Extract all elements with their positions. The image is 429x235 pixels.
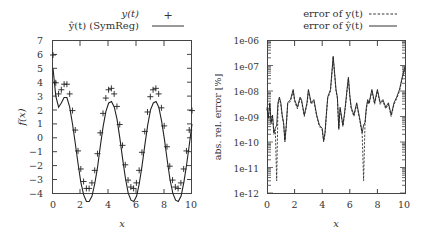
- svg-text:6: 6: [347, 199, 353, 210]
- left-chart: y(t) + ŷ(t) (SymReg) 7 6 5 4 3 2 1 0 −1 …: [0, 0, 215, 235]
- svg-text:0: 0: [264, 199, 270, 210]
- svg-text:10: 10: [185, 199, 197, 210]
- left-x-axis-label: x: [119, 218, 125, 229]
- legend-label-error-y: error of y(t): [303, 8, 363, 19]
- right-y-ticks: [268, 41, 405, 193]
- svg-text:1e-08: 1e-08: [233, 87, 259, 97]
- svg-text:5: 5: [37, 63, 43, 74]
- svg-text:10: 10: [398, 199, 410, 210]
- svg-text:−3: −3: [29, 174, 43, 185]
- svg-text:7: 7: [37, 35, 43, 46]
- svg-text:1e-12: 1e-12: [233, 189, 259, 199]
- right-legend: error of y(t) error of ŷ(t): [303, 8, 397, 31]
- svg-text:1e-10: 1e-10: [233, 138, 259, 148]
- left-y-axis-label: f(x): [16, 108, 27, 126]
- error-yhat-solid-line: [267, 56, 405, 140]
- svg-text:4: 4: [105, 199, 111, 210]
- right-y-ticklabels: 1e-06 1e-07 1e-08 1e-09 1e-10 1e-11 1e-1…: [233, 36, 259, 199]
- legend-label-error-yhat: error of ŷ(t): [303, 20, 363, 31]
- legend-label-yhat: ŷ(t) (SymReg): [68, 20, 139, 31]
- svg-text:0: 0: [37, 132, 43, 143]
- left-x-ticks: [80, 41, 164, 194]
- svg-text:8: 8: [161, 199, 167, 210]
- right-chart: error of y(t) error of ŷ(t) 1e-06 1e-07 …: [215, 0, 429, 235]
- svg-text:1e-06: 1e-06: [233, 36, 259, 46]
- left-y-ticks: [52, 54, 192, 179]
- svg-text:4: 4: [37, 77, 43, 88]
- left-plot-frame: [53, 41, 192, 194]
- svg-text:1e-07: 1e-07: [233, 62, 259, 72]
- right-x-axis-label: x: [333, 218, 339, 229]
- svg-text:−1: −1: [29, 146, 43, 157]
- svg-text:3: 3: [37, 91, 43, 102]
- svg-text:0: 0: [50, 199, 56, 210]
- error-y-dashed-line: [267, 58, 405, 181]
- svg-text:2: 2: [77, 199, 83, 210]
- legend-marker-plus: +: [163, 9, 172, 22]
- svg-text:2: 2: [37, 105, 43, 116]
- left-y-ticklabels: 7 6 5 4 3 2 1 0 −1 −2 −3 −4: [29, 35, 43, 199]
- left-x-ticklabels: 0 2 4 6 8 10: [50, 199, 197, 210]
- svg-text:−2: −2: [29, 160, 43, 171]
- svg-text:1e-09: 1e-09: [233, 113, 259, 123]
- right-plot-frame: [268, 41, 406, 194]
- svg-text:−4: −4: [29, 188, 43, 199]
- right-x-ticklabels: 0 2 4 6 8 10: [264, 199, 410, 210]
- svg-text:8: 8: [374, 199, 380, 210]
- svg-text:6: 6: [37, 49, 43, 60]
- legend-label-y: y(t): [121, 8, 140, 19]
- left-legend: y(t) + ŷ(t) (SymReg): [68, 8, 184, 31]
- yhat-symreg-line: [53, 68, 192, 201]
- right-x-ticks: [295, 41, 378, 194]
- right-y-axis-label: abs. rel. error [%]: [215, 74, 223, 160]
- svg-text:2: 2: [292, 199, 298, 210]
- svg-text:1e-11: 1e-11: [233, 164, 259, 174]
- svg-text:4: 4: [319, 199, 325, 210]
- svg-text:1: 1: [37, 118, 43, 129]
